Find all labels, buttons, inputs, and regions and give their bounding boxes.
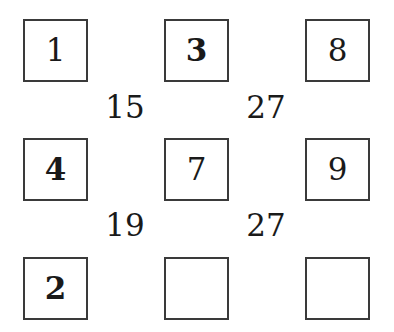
cell-r2-c0[interactable]: 2 [23, 257, 88, 320]
cell-r0-c1[interactable]: 3 [164, 19, 229, 82]
cell-r1-c2[interactable]: 9 [305, 138, 370, 201]
sum-r0-c0: 15 [95, 90, 155, 124]
sum-r1-c0: 19 [95, 208, 155, 242]
cell-r2-c1-empty[interactable] [164, 257, 229, 320]
cell-r1-c0[interactable]: 4 [23, 138, 88, 201]
cell-r2-c2-empty[interactable] [305, 257, 370, 320]
sum-r1-c1: 27 [236, 208, 296, 242]
cell-r0-c0[interactable]: 1 [23, 19, 88, 82]
cell-r0-c2[interactable]: 8 [305, 19, 370, 82]
sum-r0-c1: 27 [236, 90, 296, 124]
cell-r1-c1[interactable]: 7 [164, 138, 229, 201]
